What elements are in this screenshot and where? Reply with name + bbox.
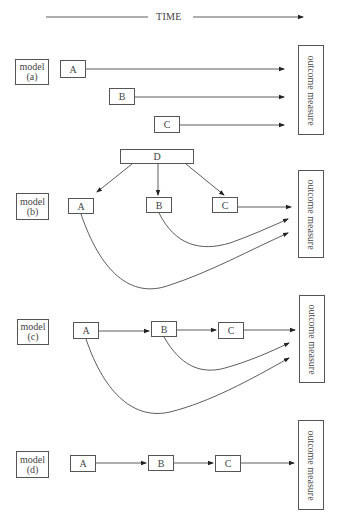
model-a-node-A: A [60,60,86,78]
model-a-label-line2: (a) [26,72,37,82]
model-d-label-line1: model [20,455,45,465]
model-d-label: model (d) [16,451,49,478]
model-a-node-B: B [109,88,135,105]
arrow-b-D-A [97,164,132,192]
arrow-c-A-outcome [86,339,289,413]
model-b-node-B: B [146,197,172,213]
model-c-label: model (c) [17,319,49,345]
model-d-node-C: C [215,455,241,472]
model-b-label-line1: model [20,197,45,207]
arrow-b-A-outcome [81,214,288,289]
arrow-c-B-outcome [164,337,289,370]
model-c-label-line2: (c) [27,332,38,342]
model-a-node-C: C [154,116,180,133]
model-c-outcome: outcome measure [299,295,325,383]
model-b-label: model (b) [16,193,49,220]
model-d-node-B: B [148,455,174,471]
model-c-node-B: B [151,321,177,337]
model-d-label-line2: (d) [27,465,39,475]
model-b-node-A: A [68,198,94,214]
model-b-outcome-label: outcome measure [306,179,317,249]
arrow-b-D-C [186,164,224,195]
model-c-node-C: C [218,322,244,339]
model-a-outcome: outcome measure [298,45,324,135]
diagram-connectors [0,0,340,520]
model-c-outcome-label: outcome measure [307,304,318,374]
model-d-outcome: outcome measure [298,420,324,510]
model-d-node-A: A [70,455,96,472]
model-b-outcome: outcome measure [298,170,324,258]
model-d-outcome-label: outcome measure [306,430,317,500]
model-b-node-C: C [212,197,238,213]
model-c-node-A: A [73,322,99,339]
model-a-label: model (a) [15,59,49,85]
model-a-outcome-label: outcome measure [306,55,317,125]
model-b-node-D: D [120,149,194,164]
model-b-label-line2: (b) [27,207,39,217]
time-label: TIME [156,11,182,22]
